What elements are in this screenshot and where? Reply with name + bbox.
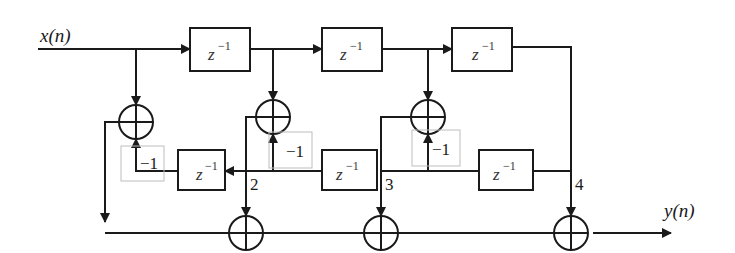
svg-text:z: z [207,45,215,64]
output-label: y(n) [662,200,695,222]
input-label: x(n) [39,25,71,47]
upper-adder-1 [119,105,153,139]
signal-flow-diagram: x(n) z−1 z−1 z−1 z−1 z−1 [0,0,735,253]
output-adder [554,216,588,250]
svg-text:−1: −1 [218,39,231,53]
upper-adder-3 [411,100,445,134]
bottom-delay-1: z−1 [178,150,225,190]
svg-text:−1: −1 [503,159,516,173]
adder1-out [105,122,119,222]
adder2-out [246,117,256,216]
svg-text:z: z [195,165,203,184]
svg-text:z: z [471,45,479,64]
gain-label-2: −1 [286,142,304,161]
gain-label-1: −1 [140,154,158,173]
bottom-delay-2: z−1 [322,150,377,190]
node-label-3: 3 [385,175,394,194]
top-delay-2: z−1 [322,28,382,71]
svg-text:z: z [492,165,500,184]
gain-label-3: −1 [432,140,450,159]
bottom-adder-2 [229,216,263,250]
node-label-2: 2 [250,175,259,194]
node-label-4: 4 [575,175,584,194]
svg-text:−1: −1 [205,159,218,173]
top-delay-3: z−1 [452,28,512,71]
top-delay-1: z−1 [190,28,250,71]
svg-text:−1: −1 [346,159,359,173]
svg-text:z: z [335,165,343,184]
bottom-delay-3: z−1 [479,150,533,190]
svg-text:z: z [339,45,347,64]
svg-text:−1: −1 [482,39,495,53]
bottom-adder-3 [364,216,398,250]
upper-adder-2 [256,100,290,134]
adder3-out [381,117,411,216]
svg-text:−1: −1 [350,39,363,53]
